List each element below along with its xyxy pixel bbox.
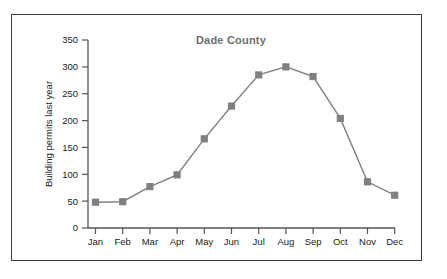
y-tick-label-150: 150: [62, 142, 78, 153]
x-tick-label-apr: Apr: [170, 236, 185, 247]
y-tick-label-200: 200: [62, 115, 78, 126]
y-tick-label-250: 250: [62, 88, 78, 99]
x-tick-label-mar: Mar: [142, 236, 158, 247]
data-point-sep: [310, 73, 317, 80]
x-axis-ticks: [96, 228, 395, 234]
data-point-aug: [282, 63, 289, 70]
x-tick-label-sep: Sep: [305, 236, 322, 247]
y-axis-ticks: [82, 40, 88, 228]
x-tick-label-feb: Feb: [115, 236, 131, 247]
x-tick-label-jan: Jan: [88, 236, 103, 247]
data-point-jun: [228, 102, 235, 109]
x-tick-label-dec: Dec: [386, 236, 403, 247]
data-point-dec: [391, 192, 398, 199]
data-point-oct: [337, 115, 344, 122]
data-series-line: [96, 67, 395, 202]
x-tick-label-jul: Jul: [253, 236, 265, 247]
x-tick-label-aug: Aug: [277, 236, 294, 247]
data-point-jul: [255, 71, 262, 78]
data-point-mar: [146, 183, 153, 190]
data-point-apr: [174, 171, 181, 178]
y-tick-label-350: 350: [62, 34, 78, 45]
x-tick-label-nov: Nov: [359, 236, 376, 247]
data-point-feb: [119, 198, 126, 205]
x-tick-label-jun: Jun: [224, 236, 239, 247]
chart-figure: 0 50 100 150 200 250 300 350: [0, 0, 447, 279]
x-tick-label-may: May: [195, 236, 213, 247]
data-series-markers: [92, 63, 398, 206]
y-tick-label-0: 0: [73, 222, 78, 233]
y-tick-label-300: 300: [62, 61, 78, 72]
data-point-may: [201, 135, 208, 142]
y-axis-title: Building permits last year: [43, 81, 54, 187]
line-chart-svg: 0 50 100 150 200 250 300 350: [0, 0, 447, 279]
data-point-jan: [92, 199, 99, 206]
x-tick-label-oct: Oct: [333, 236, 348, 247]
plot-area: 0 50 100 150 200 250 300 350: [0, 0, 447, 279]
data-point-nov: [364, 178, 371, 185]
y-tick-label-50: 50: [67, 196, 78, 207]
chart-title: Dade County: [196, 34, 267, 46]
y-tick-label-100: 100: [62, 169, 78, 180]
